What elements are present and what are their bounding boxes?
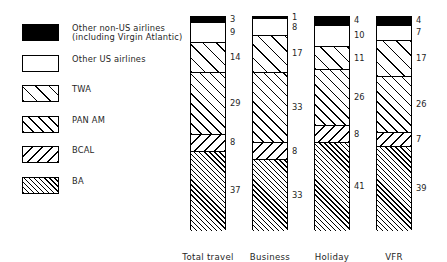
legend-label-twa: TWA xyxy=(72,85,91,94)
legend-label-bcal: BCAL xyxy=(72,146,94,155)
bar-segment-vfr-other-non-us-airlines[interactable] xyxy=(377,17,411,26)
bar-value-label-holiday-twa: 11 xyxy=(354,54,365,62)
bar-value-label-vfr-other-us-airlines: 7 xyxy=(416,28,421,36)
bar-value-label-vfr-twa: 17 xyxy=(416,54,427,62)
bar-value-label-holiday-other-non-us-airlines: 4 xyxy=(354,16,359,24)
stacked-bar-holiday[interactable] xyxy=(314,16,350,230)
legend-item-twa: TWA xyxy=(22,85,192,102)
bar-value-label-holiday-pan-am: 26 xyxy=(354,93,365,101)
stacked-bar-vfr[interactable] xyxy=(376,16,412,230)
bar-value-label-holiday-ba: 41 xyxy=(354,182,365,190)
stacked-bar-total-travel[interactable] xyxy=(190,16,226,230)
legend-swatch-twa xyxy=(22,85,59,102)
bar-segment-holiday-other-non-us-airlines[interactable] xyxy=(315,17,349,26)
stacked-bar-business[interactable] xyxy=(252,16,288,230)
bar-segment-business-twa[interactable] xyxy=(253,36,287,72)
bar-segment-total-travel-bcal[interactable] xyxy=(191,135,225,152)
legend-item-pan-am: PAN AM xyxy=(22,116,192,133)
legend-item-other-non-us-airlines: Other non-US airlines (including Virgin … xyxy=(22,24,192,41)
bar-value-label-vfr-ba: 39 xyxy=(416,184,427,192)
bar-value-label-vfr-other-non-us-airlines: 4 xyxy=(416,16,421,24)
legend-swatch-ba xyxy=(22,177,59,194)
bar-value-label-holiday-bcal: 8 xyxy=(354,130,359,138)
bar-value-label-business-other-non-us-airlines: 1 xyxy=(292,13,297,21)
bar-value-label-total-travel-pan-am: 29 xyxy=(230,99,241,107)
legend-swatch-pan-am xyxy=(22,116,59,133)
chart-root: Other non-US airlines (including Virgin … xyxy=(0,0,447,262)
bar-segment-vfr-pan-am[interactable] xyxy=(377,77,411,133)
legend-label-other-us-airlines: Other US airlines xyxy=(72,55,146,64)
bar-segment-total-travel-other-us-airlines[interactable] xyxy=(191,23,225,42)
bar-group-holiday: 4101126841Holiday xyxy=(314,16,350,230)
bar-segment-vfr-twa[interactable] xyxy=(377,41,411,77)
legend-item-bcal: BCAL xyxy=(22,146,192,163)
bar-value-label-business-other-us-airlines: 8 xyxy=(292,23,297,31)
bar-value-label-business-twa: 17 xyxy=(292,49,303,57)
bar-segment-holiday-pan-am[interactable] xyxy=(315,70,349,126)
legend-label-ba: BA xyxy=(72,177,84,186)
legend-item-ba: BA xyxy=(22,177,192,194)
bar-value-label-holiday-other-us-airlines: 10 xyxy=(354,31,365,39)
bar-segment-business-ba[interactable] xyxy=(253,160,287,231)
bar-value-label-total-travel-ba: 37 xyxy=(230,186,241,194)
bar-segment-business-bcal[interactable] xyxy=(253,143,287,160)
bar-value-label-business-pan-am: 33 xyxy=(292,103,303,111)
legend-label-other-non-us-airlines: Other non-US airlines (including Virgin … xyxy=(72,24,182,43)
bar-segment-vfr-ba[interactable] xyxy=(377,147,411,230)
category-label-total-travel: Total travel xyxy=(182,252,233,262)
bar-value-label-vfr-pan-am: 26 xyxy=(416,100,427,108)
bar-segment-total-travel-twa[interactable] xyxy=(191,43,225,73)
legend-label-pan-am: PAN AM xyxy=(72,116,105,125)
bar-segment-holiday-ba[interactable] xyxy=(315,143,349,231)
bar-value-label-total-travel-twa: 14 xyxy=(230,53,241,61)
bar-value-label-business-bcal: 8 xyxy=(292,147,297,155)
legend-swatch-other-us-airlines xyxy=(22,55,59,72)
legend-swatch-bcal xyxy=(22,146,59,163)
bar-segment-total-travel-ba[interactable] xyxy=(191,152,225,231)
legend-swatch-other-non-us-airlines xyxy=(22,24,59,41)
bar-segment-holiday-bcal[interactable] xyxy=(315,126,349,143)
bar-value-label-total-travel-other-non-us-airlines: 3 xyxy=(230,15,235,23)
bar-value-label-total-travel-bcal: 8 xyxy=(230,138,235,146)
bar-value-label-vfr-bcal: 7 xyxy=(416,135,421,143)
bar-group-vfr: 471726739VFR xyxy=(376,16,412,230)
bar-segment-business-pan-am[interactable] xyxy=(253,73,287,144)
category-label-business: Business xyxy=(250,252,290,262)
bar-group-business: 181733833Business xyxy=(252,16,288,230)
category-label-vfr: VFR xyxy=(385,252,403,262)
bar-segment-total-travel-pan-am[interactable] xyxy=(191,73,225,135)
bar-group-total-travel: 391429837Total travel xyxy=(190,16,226,230)
bar-segment-business-other-us-airlines[interactable] xyxy=(253,19,287,36)
legend-item-other-us-airlines: Other US airlines xyxy=(22,55,192,72)
category-label-holiday: Holiday xyxy=(315,252,349,262)
bar-segment-holiday-twa[interactable] xyxy=(315,47,349,71)
bar-value-label-total-travel-other-us-airlines: 9 xyxy=(230,28,235,36)
bar-value-label-business-ba: 33 xyxy=(292,191,303,199)
chart-legend: Other non-US airlines (including Virgin … xyxy=(22,24,192,207)
bar-segment-vfr-bcal[interactable] xyxy=(377,133,411,148)
chart-plot-area: 391429837Total travel181733833Business41… xyxy=(190,0,447,262)
bar-segment-vfr-other-us-airlines[interactable] xyxy=(377,26,411,41)
bar-segment-holiday-other-us-airlines[interactable] xyxy=(315,26,349,47)
